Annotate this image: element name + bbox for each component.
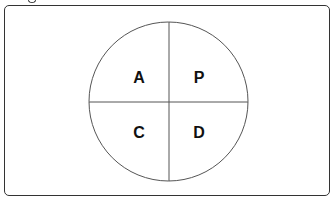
pdca-cycle-diagram: A P C D xyxy=(0,0,334,203)
quadrant-label-top-right: P xyxy=(194,69,205,86)
quadrant-label-bottom-right: D xyxy=(193,124,205,141)
quadrant-label-bottom-left: C xyxy=(133,124,145,141)
quadrant-label-top-left: A xyxy=(133,69,145,86)
